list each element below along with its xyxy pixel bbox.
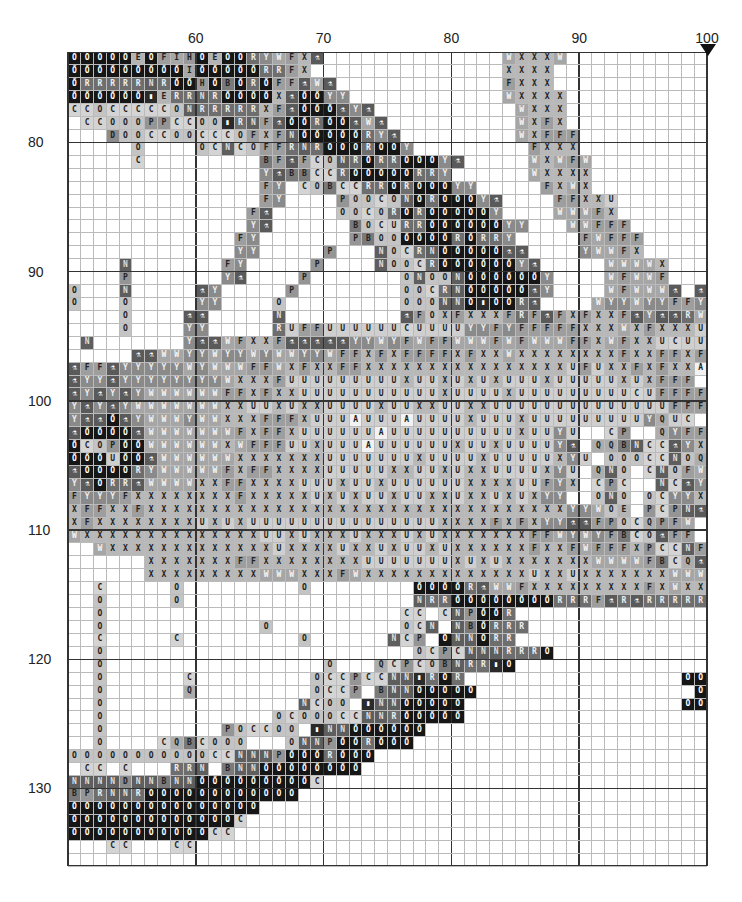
row-label: 130 xyxy=(28,780,51,796)
row-label: 110 xyxy=(28,522,50,538)
column-label: 90 xyxy=(571,30,587,46)
column-label: 60 xyxy=(188,30,204,46)
row-label: 90 xyxy=(28,264,44,280)
row-label: 100 xyxy=(28,393,51,409)
grid-border xyxy=(68,52,707,866)
row-label: 120 xyxy=(28,651,51,667)
row-label: 80 xyxy=(28,134,44,150)
column-label: 100 xyxy=(695,30,718,46)
pattern-grid: ŐŐŐŐŐEŐFIHŐEŐŐRYWFX⚗WXXXWŐŐŐŐŐŐŐŐŐIŐŐŐŐŐ… xyxy=(68,52,707,866)
column-label: 70 xyxy=(316,30,332,46)
column-label: 80 xyxy=(444,30,460,46)
